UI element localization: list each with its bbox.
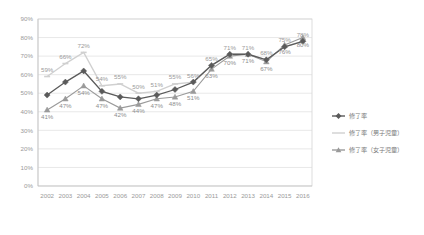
series-marker-overall xyxy=(172,87,178,93)
x-axis-tick-label: 2006 xyxy=(113,192,127,199)
legend-marker-overall xyxy=(336,113,342,119)
y-axis-tick-label: 20% xyxy=(21,145,34,152)
y-axis-tick-label: 80% xyxy=(21,34,34,41)
data-label-female: 67% xyxy=(260,65,273,72)
x-axis-tick-label: 2003 xyxy=(59,192,73,199)
y-axis-tick-label: 40% xyxy=(21,108,34,115)
series-marker-female xyxy=(81,83,87,88)
data-label-female: 54% xyxy=(77,89,90,96)
x-axis-tick-label: 2002 xyxy=(40,192,54,199)
data-label-male: 56% xyxy=(187,72,200,79)
data-label-female: 42% xyxy=(114,111,127,118)
y-axis-tick-label: 90% xyxy=(21,15,34,22)
y-axis-tick-label: 60% xyxy=(21,71,34,78)
data-label-female: 51% xyxy=(187,94,200,101)
data-label-male: 71% xyxy=(242,44,255,51)
x-axis-tick-label: 2013 xyxy=(241,192,255,199)
x-axis-tick-label: 2015 xyxy=(278,192,292,199)
legend-label-female[interactable]: 修了率（女子児童） xyxy=(349,146,403,154)
data-label-female: 44% xyxy=(132,107,145,114)
x-axis-tick-label: 2004 xyxy=(77,192,91,199)
chart-canvas: 90%80%70%60%50%40%30%20%10%0%20022003200… xyxy=(0,0,424,235)
legend-label-male[interactable]: 修了率（男子児童） xyxy=(349,129,403,137)
legend-label-overall[interactable]: 修了率 xyxy=(349,112,367,120)
series-marker-female xyxy=(44,107,50,112)
y-axis-tick-label: 50% xyxy=(21,89,34,96)
data-label-female: 63% xyxy=(205,72,218,79)
y-axis-tick-label: 30% xyxy=(21,127,34,134)
data-label-female: 80% xyxy=(297,41,310,48)
data-label-male: 54% xyxy=(96,75,109,82)
data-label-male: 68% xyxy=(260,49,273,56)
data-label-male: 65% xyxy=(205,55,218,62)
data-label-female: 48% xyxy=(169,100,182,107)
data-label-male: 55% xyxy=(114,73,127,80)
x-axis-tick-label: 2012 xyxy=(223,192,237,199)
data-label-male: 50% xyxy=(132,83,145,90)
x-axis-tick-label: 2007 xyxy=(132,192,146,199)
line-chart: 90%80%70%60%50%40%30%20%10%0%20022003200… xyxy=(0,0,424,235)
x-axis-tick-label: 2008 xyxy=(150,192,164,199)
data-label-female: 70% xyxy=(224,59,237,66)
data-label-male: 55% xyxy=(169,73,182,80)
data-label-male: 78% xyxy=(297,31,310,38)
data-label-female: 47% xyxy=(59,102,72,109)
data-label-female: 41% xyxy=(41,113,54,120)
x-axis-tick-label: 2009 xyxy=(168,192,182,199)
data-label-male: 72% xyxy=(77,42,90,49)
data-label-female: 76% xyxy=(278,48,291,55)
x-axis-tick-label: 2005 xyxy=(95,192,109,199)
series-marker-overall xyxy=(135,96,141,102)
data-label-male: 66% xyxy=(59,53,72,60)
y-axis-tick-label: 0% xyxy=(24,182,33,189)
x-axis-tick-label: 2016 xyxy=(296,192,310,199)
data-label-male: 71% xyxy=(224,44,237,51)
data-label-male: 51% xyxy=(151,81,164,88)
y-axis-tick-label: 10% xyxy=(21,164,34,171)
x-axis-tick-label: 2014 xyxy=(259,192,273,199)
y-axis-tick-label: 70% xyxy=(21,52,34,59)
x-axis-tick-label: 2011 xyxy=(205,192,219,199)
data-label-female: 47% xyxy=(96,102,109,109)
series-marker-overall xyxy=(117,94,123,100)
x-axis-tick-label: 2010 xyxy=(186,192,200,199)
data-label-female: 47% xyxy=(151,102,164,109)
data-label-female: 71% xyxy=(242,57,255,64)
data-label-male: 59% xyxy=(41,66,54,73)
data-label-male: 75% xyxy=(278,36,291,43)
